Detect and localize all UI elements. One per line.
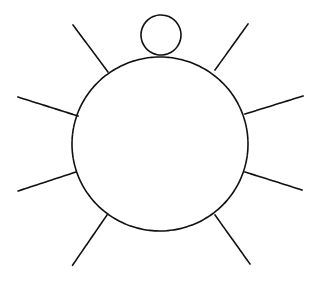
ray-bottom-left [72, 215, 107, 266]
ray-right-lower [245, 172, 302, 190]
ray-top-left [73, 25, 108, 72]
drawing-canvas [0, 0, 320, 282]
ray-left-upper [18, 97, 78, 116]
ray-right-upper [245, 96, 303, 114]
ray-top-right [215, 24, 248, 70]
rays-group [18, 24, 303, 266]
ray-left-lower [18, 172, 76, 191]
head-circle [141, 15, 181, 55]
body-circle [72, 57, 248, 231]
ray-bottom-right [215, 215, 250, 264]
